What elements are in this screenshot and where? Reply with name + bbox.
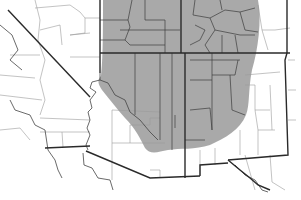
county-borders-west <box>0 0 100 147</box>
texas-mexico-border <box>228 160 270 190</box>
colorado-river <box>86 73 100 150</box>
california-arizona-border <box>45 146 90 148</box>
arizona-mexico-border <box>86 151 200 178</box>
range-shaded-region <box>98 0 259 152</box>
newmexico-mexico-border <box>200 163 228 176</box>
california-nevada-border <box>8 10 90 97</box>
range-map <box>0 0 301 200</box>
map-canvas <box>0 0 301 200</box>
